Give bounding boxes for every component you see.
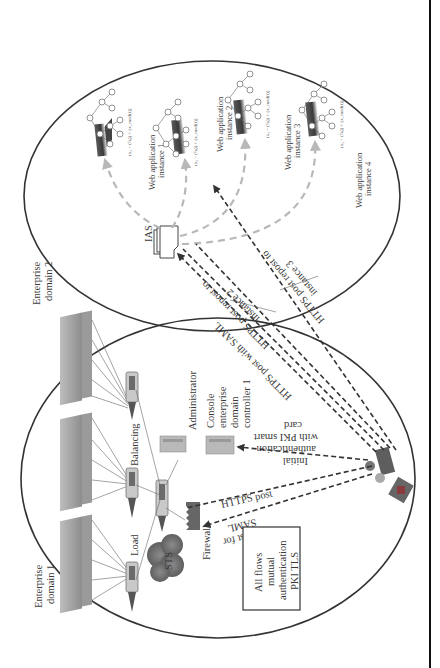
load-balancer-1 [126,562,138,612]
svg-text:card: card [283,420,302,431]
svg-text:Initial: Initial [283,456,308,467]
svg-text:authentication: authentication [256,444,316,455]
ias-to-webapp-2-arrow [180,140,245,236]
user-workstation-icon [365,447,414,504]
load-label: Load [129,534,140,556]
svg-text:All flows: All flows [253,553,264,592]
svg-text:domain 2: domain 2 [43,262,54,301]
ias-to-webapp-1-arrow [172,160,186,228]
svg-text:Enterprise: Enterprise [33,565,44,608]
firewall-label: Firewall [201,525,212,560]
load-balancer-2 [126,468,138,518]
web-app-label-4: Web application instance 4 [354,152,373,208]
https-post-arrow [186,466,372,508]
initial-authentication-label: Initial authentication with PKI smart ca… [254,420,318,467]
firewall-icon [186,502,200,530]
svg-text:enterprise: enterprise [217,386,228,428]
svg-text:domain: domain [229,396,240,428]
svg-text:PKI TLS: PKI TLS [289,552,300,590]
svg-text:(x₂ − (ⁱ⁄ₙ)) + (x_mod(t)): (x₂ − (ⁱ⁄ₙ)) + (x_mod(t)) [127,108,132,156]
enterprise-domain-2-label: Enterprise domain 2 [31,262,54,305]
svg-text:controller 1: controller 1 [241,379,252,428]
server-rack-group-1 [60,514,128,613]
domain-controller-icon [206,436,234,454]
https-post-label: HTTPS post [220,487,273,509]
web-app-label-3: Web application instance 3 [283,114,302,170]
svg-text:Enterprise: Enterprise [31,262,42,305]
server-rack-group-3 [60,310,128,408]
svg-text:authentication: authentication [277,540,288,600]
tree-diagram-4: (x₂ − (ⁱ⁄ₙ)) + (x_mod(t)) [299,81,344,148]
svg-text:instance 3: instance 3 [292,124,302,158]
svg-text:(x₂ − (ⁱ⁄ₙ)) + (x_mod(t)): (x₂ − (ⁱ⁄ₙ)) + (x_mod(t)) [339,100,344,148]
svg-text:mutual: mutual [265,557,276,586]
svg-text:instance 4: instance 4 [363,161,373,196]
switch-to-admin-link [166,460,178,485]
central-switch [156,480,168,532]
repost-instance-2-label: HTTPS post repost to instance 2 [199,271,280,352]
ias-label: IAS [143,225,154,242]
svg-text:(x₂ − (ⁱ⁄ₙ)) + (x_mod(t)): (x₂ − (ⁱ⁄ₙ)) + (x_mod(t)) [265,90,270,138]
svg-text:with PKI smart: with PKI smart [254,432,318,443]
security-architecture-diagram: Enterprise domain 2 Web application inst… [0,0,440,668]
svg-text:instance 1: instance 1 [156,144,166,178]
enterprise-domain-1-label: Enterprise domain 1 [33,565,56,608]
svg-text:Console: Console [205,393,216,428]
svg-text:instance 2: instance 2 [224,106,234,140]
administrator-workstation-icon [160,436,186,452]
load-balancer-3 [126,372,138,420]
sts-label: STS [163,552,174,570]
web-app-label-2: Web application instance 2 [215,96,234,152]
balancing-label: Balancing [129,423,140,466]
ias-server-icon [154,226,178,258]
svg-text:(x₂ − (ⁱ⁄ₙ)) + (x_mod(t)): (x₂ − (ⁱ⁄ₙ)) + (x_mod(t)) [193,118,198,166]
administrator-label: Administrator [187,371,198,430]
server-rack-group-2 [60,412,128,511]
console-domain-controller-label: Console enterprise domain controller 1 [205,379,252,428]
switch-to-firewall-link [166,508,185,520]
svg-text:domain 1: domain 1 [45,565,56,604]
